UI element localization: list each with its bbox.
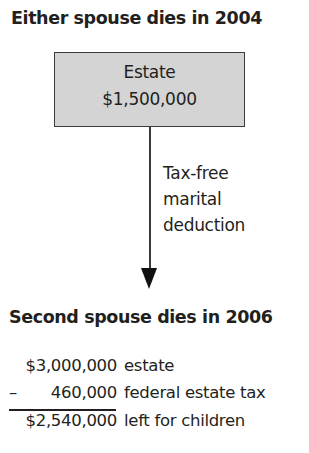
calc-amount: $3,000,000 — [9, 356, 117, 375]
heading-second-death: Second spouse dies in 2006 — [9, 307, 273, 327]
calc-row-result: $2,540,000left for children — [9, 411, 245, 430]
arrow-label-line: marital — [163, 186, 245, 212]
estate-box-label: Estate — [55, 62, 244, 82]
calc-description: federal estate tax — [124, 383, 265, 402]
calc-row-tax: – 460,000federal estate tax — [9, 383, 265, 402]
arrow-label: Tax-free marital deduction — [163, 160, 245, 238]
calc-description: estate — [124, 356, 174, 375]
calc-description: left for children — [124, 411, 245, 430]
heading-first-death: Either spouse dies in 2004 — [11, 8, 262, 28]
estate-box-amount: $1,500,000 — [55, 89, 244, 109]
arrow-label-line: deduction — [163, 212, 245, 238]
arrow-label-line: Tax-free — [163, 160, 245, 186]
calc-row-estate: $3,000,000estate — [9, 356, 174, 375]
arrow-down-icon — [141, 268, 157, 289]
minus-sign: – — [9, 383, 17, 402]
calc-amount: 460,000 — [9, 383, 117, 402]
arrow-line — [149, 127, 151, 270]
calc-amount: $2,540,000 — [9, 411, 117, 430]
estate-box: Estate $1,500,000 — [54, 52, 245, 127]
